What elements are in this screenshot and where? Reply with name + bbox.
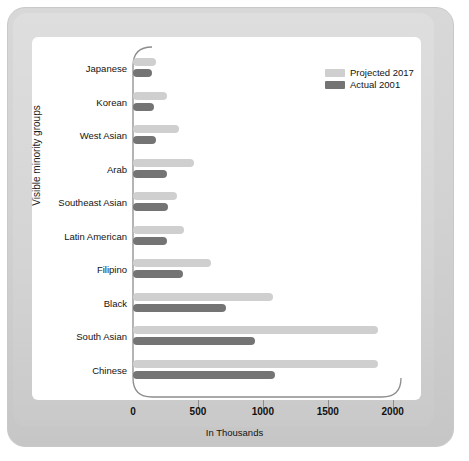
x-axis-tick-label: 2000	[382, 406, 404, 417]
legend-label-projected: Projected 2017	[350, 67, 414, 78]
bar-projected	[133, 125, 179, 133]
x-axis-tick-label: 0	[130, 406, 136, 417]
y-axis-tick-label: Southeast Asian	[0, 198, 127, 208]
bar-projected	[133, 92, 167, 100]
legend-item-projected: Projected 2017	[325, 67, 414, 78]
bar-actual	[133, 203, 168, 211]
legend-item-actual: Actual 2001	[325, 79, 414, 90]
x-axis-tick-label: 1000	[252, 406, 274, 417]
x-axis-tick-label: 500	[190, 406, 207, 417]
y-axis-tick-label: South Asian	[0, 332, 127, 342]
bar-actual	[133, 237, 167, 245]
bar-actual	[133, 304, 226, 312]
bar-projected	[133, 326, 378, 334]
legend-swatch-actual	[325, 81, 345, 89]
chart-legend: Projected 2017 Actual 2001	[325, 67, 414, 91]
x-axis-title: In Thousands	[0, 427, 469, 438]
bar-projected	[133, 159, 194, 167]
bar-actual	[133, 337, 255, 345]
y-axis-tick-label: Arab	[0, 165, 127, 175]
legend-label-actual: Actual 2001	[350, 79, 400, 90]
y-axis-tick-label: Latin American	[0, 232, 127, 242]
bar-actual	[133, 270, 183, 278]
y-axis-tick-label: Black	[0, 299, 127, 309]
bar-actual	[133, 136, 156, 144]
y-axis-tick-label: Japanese	[0, 64, 127, 74]
bar-actual	[133, 371, 275, 379]
bar-actual	[133, 103, 154, 111]
bar-actual	[133, 69, 152, 77]
bar-actual	[133, 170, 167, 178]
bar-projected	[133, 226, 184, 234]
y-axis-tick-label: Chinese	[0, 366, 127, 376]
chart-screenshot: Visible minority groups JapaneseKoreanWe…	[0, 0, 469, 461]
y-axis-tick-label: West Asian	[0, 131, 127, 141]
bar-projected	[133, 58, 156, 66]
bar-projected	[133, 192, 177, 200]
x-axis-tick-label: 1500	[317, 406, 339, 417]
y-axis-tick-label: Filipino	[0, 265, 127, 275]
bar-projected	[133, 360, 378, 368]
bar-projected	[133, 293, 273, 301]
y-axis-tick-label: Korean	[0, 98, 127, 108]
bar-projected	[133, 259, 211, 267]
legend-swatch-projected	[325, 69, 345, 77]
